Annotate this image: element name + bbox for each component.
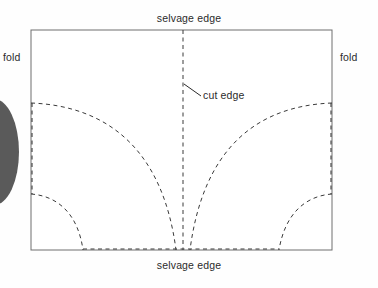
label-selvage-edge-top: selvage edge [0, 13, 378, 24]
decorative-ellipse [0, 99, 19, 205]
fabric-layout-diagram [0, 0, 378, 288]
label-fold-left: fold [3, 52, 21, 63]
label-selvage-edge-bottom: selvage edge [0, 260, 378, 271]
fabric-rectangle [31, 30, 332, 250]
label-fold-right: fold [340, 52, 358, 63]
diagram-canvas: selvage edge selvage edge fold fold cut … [0, 0, 378, 288]
label-cut-edge: cut edge [203, 90, 244, 101]
